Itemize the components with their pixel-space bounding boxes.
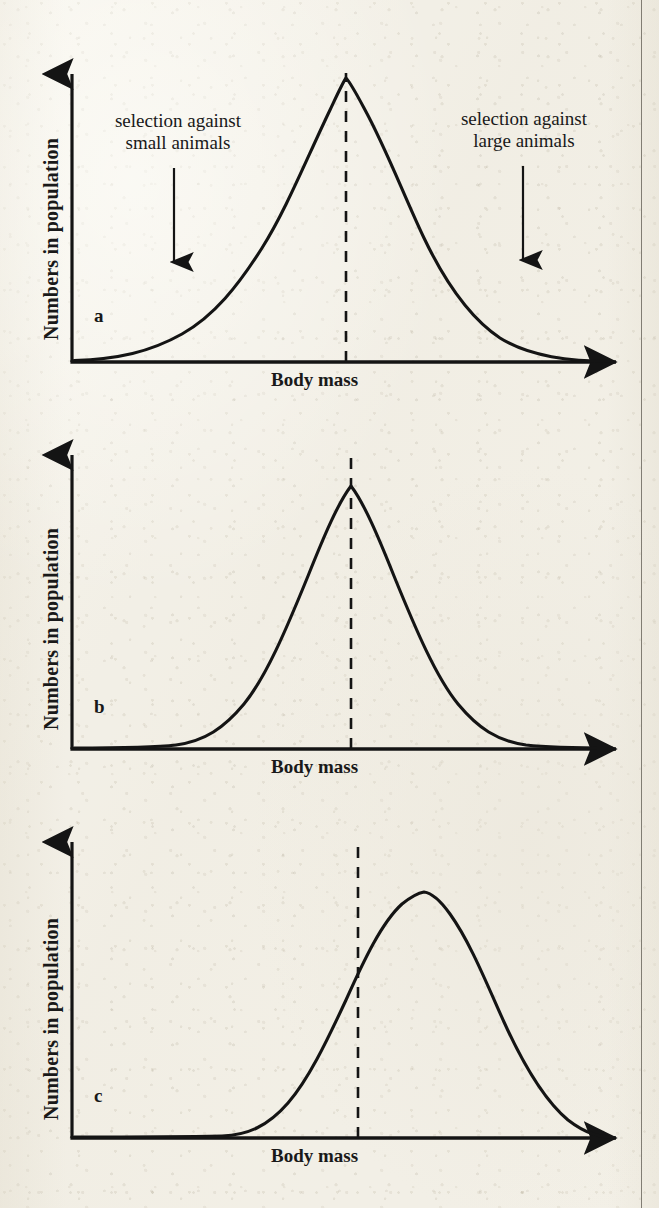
panel-b: Numbers in population Body mass b xyxy=(0,400,659,800)
panel-b-y-axis-label: Numbers in population xyxy=(40,528,63,730)
panel-a-x-axis-label: Body mass xyxy=(271,369,358,391)
panel-a-annotation-left-line1: selection against xyxy=(88,110,268,132)
panel-a-annotation-right: selection against large animals xyxy=(434,108,614,153)
panel-b-plot xyxy=(0,400,659,800)
panel-a-annotation-left-line2: small animals xyxy=(88,132,268,154)
panel-c-curve xyxy=(74,892,614,1138)
panel-a: Numbers in population Body mass a select… xyxy=(0,0,659,400)
panel-c-y-axis-label: Numbers in population xyxy=(40,918,63,1120)
panel-c-letter: c xyxy=(94,1085,102,1107)
panel-a-y-axis-label: Numbers in population xyxy=(40,138,63,340)
panel-a-plot xyxy=(0,0,659,400)
panel-a-annotation-left: selection against small animals xyxy=(88,110,268,155)
panel-a-annotation-right-line1: selection against xyxy=(434,108,614,130)
figure-page: Numbers in population Body mass a select… xyxy=(0,0,659,1208)
panel-a-letter: a xyxy=(94,305,104,327)
panel-b-letter: b xyxy=(94,696,105,718)
panel-c-x-axis-label: Body mass xyxy=(271,1145,358,1167)
panel-b-curve xyxy=(74,486,612,748)
panel-b-x-axis-label: Body mass xyxy=(271,756,358,778)
panel-c: Numbers in population Body mass c xyxy=(0,800,659,1208)
panel-a-annotation-right-line2: large animals xyxy=(434,130,614,152)
